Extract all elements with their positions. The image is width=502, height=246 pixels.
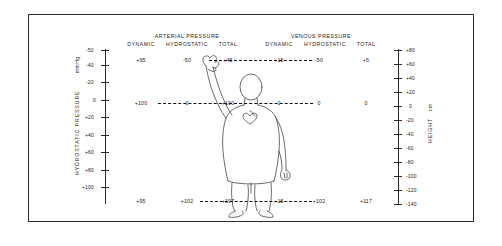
value-arterial-hydrostatic-heart: 0 bbox=[185, 100, 188, 106]
value-venous-dynamic-hand: +15 bbox=[274, 57, 283, 63]
value-venous-dynamic-heart: 0 bbox=[277, 100, 280, 106]
value-arterial-dynamic-foot: +95 bbox=[136, 198, 145, 204]
value-venous-total-heart: 0 bbox=[364, 100, 367, 106]
value-arterial-hydrostatic-hand: -50 bbox=[183, 57, 191, 63]
value-venous-dynamic-foot: +15 bbox=[274, 198, 283, 204]
value-venous-hydrostatic-heart: 0 bbox=[317, 100, 320, 106]
value-arterial-dynamic-hand: +95 bbox=[136, 57, 145, 63]
value-arterial-total-hand: +45 bbox=[223, 57, 232, 63]
level-line-heart bbox=[158, 103, 313, 104]
value-venous-total-hand: +5 bbox=[363, 57, 369, 63]
value-arterial-hydrostatic-foot: +102 bbox=[181, 198, 194, 204]
value-venous-total-foot: +117 bbox=[360, 198, 372, 204]
diagram-frame: ARTERIAL PRESSURE VENOUS PRESSURE DYNAMI… bbox=[28, 14, 474, 222]
value-venous-hydrostatic-hand: -50 bbox=[315, 57, 323, 63]
value-arterial-dynamic-heart: +100 bbox=[135, 100, 148, 106]
level-line-foot bbox=[200, 201, 312, 202]
value-arterial-total-foot: +197 bbox=[222, 198, 235, 204]
value-venous-hydrostatic-foot: +102 bbox=[313, 198, 326, 204]
standing-human-figure bbox=[29, 15, 475, 223]
value-arterial-total-heart: +100 bbox=[222, 100, 235, 106]
diagram-plot-area: ARTERIAL PRESSURE VENOUS PRESSURE DYNAMI… bbox=[29, 15, 473, 221]
